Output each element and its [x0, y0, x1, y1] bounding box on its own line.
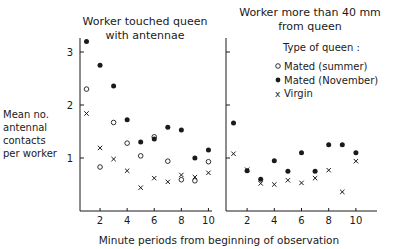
x-marker: [206, 171, 210, 175]
filled-circle-marker: [206, 148, 211, 153]
filled-circle-marker: [111, 83, 116, 88]
x-marker: [313, 176, 317, 180]
filled-circle-marker: [231, 121, 236, 126]
y-tick-label: 1: [67, 153, 73, 164]
left-panel-points: [84, 39, 211, 190]
x-tick-label: 6: [151, 215, 157, 226]
open-circle-marker: [179, 177, 184, 182]
x-tick-label: 4: [271, 215, 277, 226]
filled-circle-marker: [258, 177, 263, 182]
x-tick-label: 10: [350, 215, 363, 226]
legend-label-summer: Mated (summer): [284, 61, 368, 72]
x-marker: [139, 185, 143, 189]
x-marker: [125, 169, 129, 173]
x-tick-label: 8: [178, 215, 184, 226]
filled-circle-marker: [285, 169, 290, 174]
x-marker-icon: x: [275, 89, 281, 99]
open-circle-marker: [138, 154, 143, 159]
filled-circle-marker: [84, 39, 89, 44]
x-tick-label: 10: [202, 215, 215, 226]
open-circle-marker: [166, 159, 171, 164]
filled-circle-marker: [192, 156, 197, 161]
filled-circle-marker: [138, 140, 143, 145]
x-marker: [231, 152, 235, 156]
x-tick-label: 2: [244, 215, 250, 226]
x-marker: [179, 173, 183, 177]
right-panel-title-line1: Worker more than 40 mm: [239, 6, 381, 19]
right-panel-title-line2: from queen: [278, 20, 342, 33]
filled-circle-marker: [313, 169, 318, 174]
x-marker: [354, 159, 358, 163]
x-marker: [272, 182, 276, 186]
open-circle-marker: [84, 87, 89, 92]
legend-label-november: Mated (November): [284, 75, 378, 86]
filled-circle-marker: [299, 150, 304, 155]
open-circle-marker: [98, 165, 103, 170]
filled-circle-marker: [152, 136, 157, 141]
open-circle-marker: [206, 159, 211, 164]
left-panel-title-line1: Worker touched queen: [83, 15, 208, 28]
x-marker: [299, 181, 303, 185]
filled-circle-icon: [276, 78, 281, 83]
x-tick-label: 2: [97, 215, 103, 226]
filled-circle-marker: [98, 63, 103, 68]
x-marker: [259, 181, 263, 185]
x-marker: [166, 180, 170, 184]
x-marker: [286, 178, 290, 182]
open-circle-marker: [111, 120, 116, 125]
x-marker: [111, 157, 115, 161]
y-axis-label-line3: contacts: [3, 135, 46, 146]
x-axis-label: Minute periods from beginning of observa…: [99, 234, 339, 246]
filled-circle-marker: [272, 158, 277, 163]
y-axis-label-line1: Mean no.: [3, 109, 49, 120]
filled-circle-marker: [165, 125, 170, 130]
legend-label-virgin: Virgin: [284, 88, 313, 99]
filled-circle-marker: [353, 150, 358, 155]
left-panel-axes: 123246810: [67, 38, 215, 226]
filled-circle-marker: [340, 142, 345, 147]
x-tick-label: 6: [298, 215, 304, 226]
open-circle-marker: [125, 141, 130, 146]
x-marker: [327, 168, 331, 172]
legend-title: Type of queen :: [282, 42, 360, 53]
chart-figure: Worker touched queen with antennae Worke…: [0, 0, 395, 249]
x-marker: [340, 190, 344, 194]
open-circle-icon: [276, 64, 281, 69]
x-marker: [84, 111, 88, 115]
filled-circle-marker: [179, 127, 184, 132]
x-marker: [152, 176, 156, 180]
x-marker: [98, 146, 102, 150]
y-axis-label-line4: per worker: [3, 148, 58, 159]
y-tick-label: 2: [67, 100, 73, 111]
filled-circle-marker: [125, 117, 130, 122]
right-panel-points: [231, 121, 358, 195]
legend: Type of queen : Mated (summer) Mated (No…: [275, 42, 378, 99]
y-axis-label-line2: antennal: [3, 122, 47, 133]
x-tick-label: 8: [326, 215, 332, 226]
x-tick-label: 4: [124, 215, 130, 226]
y-tick-label: 3: [67, 47, 73, 58]
left-panel-title-line2: with antennae: [105, 29, 184, 42]
filled-circle-marker: [326, 142, 331, 147]
